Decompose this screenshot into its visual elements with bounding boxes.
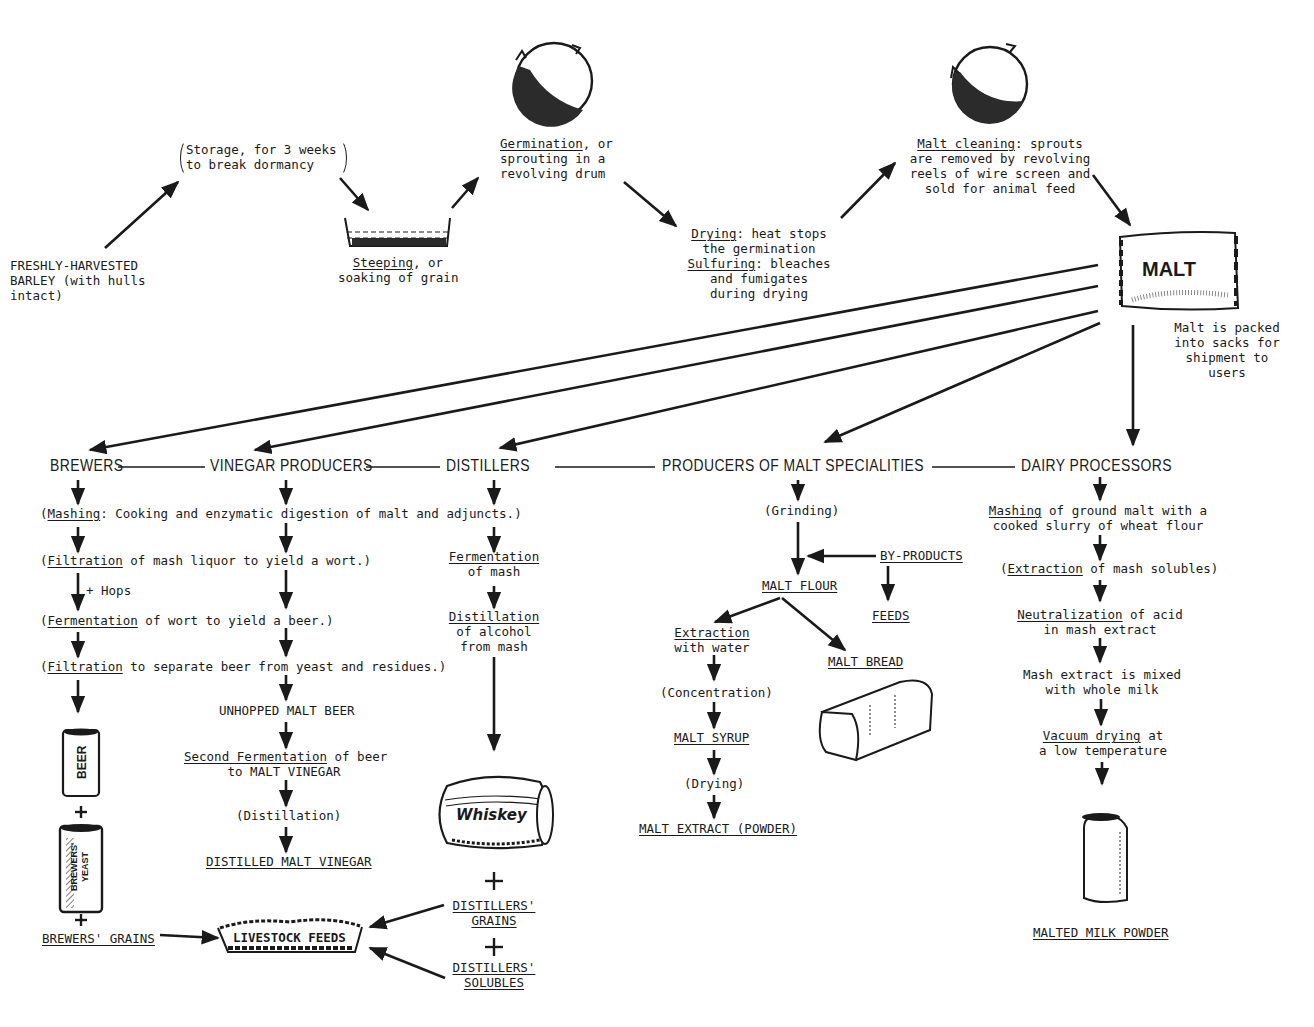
arrow-barley-to-storage xyxy=(105,182,178,248)
steeping-step: Steeping, orsoaking of grain xyxy=(338,255,458,285)
arrow-malt-to-brewers xyxy=(90,265,1098,450)
malt-bread: MALT BREAD xyxy=(828,654,903,669)
brewers-grains: BREWERS' GRAINS xyxy=(42,931,155,946)
malt-bread-illustration xyxy=(820,681,932,761)
arrow-malt-to-distillers xyxy=(500,311,1098,448)
header-dairy-processors: DAIRY PROCESSORS xyxy=(1021,456,1172,476)
malt-note: Malt is packed into sacks for shipment t… xyxy=(1166,320,1288,380)
distillers-solubles: DISTILLERS' SOLUBLES xyxy=(446,960,542,990)
header-distillers: DISTILLERS xyxy=(446,456,530,476)
arrow-steeping-to-germination xyxy=(452,178,478,208)
vacuum-drying-step: Vacuum drying ata low temperature xyxy=(1030,728,1176,758)
cleaning-drum-illustration xyxy=(951,44,1027,124)
unhopped-malt-beer: UNHOPPED MALT BEER xyxy=(219,703,354,718)
filtration-wort-step: (Filtration of mash liquor to yield a wo… xyxy=(40,553,371,568)
distillers-grains: DISTILLERS' GRAINS xyxy=(446,898,542,928)
mashing-step: (Mashing: Cooking and enzymatic digestio… xyxy=(40,506,522,521)
livestock-feeds-label: LIVESTOCK FEEDS xyxy=(233,930,346,945)
by-products: BY-PRODUCTS xyxy=(880,548,963,563)
header-brewers: BREWERS xyxy=(50,456,123,476)
malt-cleaning-step: Malt cleaning: sproutsare removed by rev… xyxy=(906,136,1094,196)
whiskey-barrel-label: Whiskey xyxy=(456,806,527,824)
malt-extract-powder: MALT EXTRACT (POWDER) xyxy=(639,821,797,836)
distillation-step: (Distillation) xyxy=(236,808,341,823)
distilled-malt-vinegar: DISTILLED MALT VINEGAR xyxy=(206,854,372,869)
yeast-can-label: BREWERS' YEAST xyxy=(69,835,99,899)
malt-sack-label: MALT xyxy=(1142,258,1196,281)
neutralization-step: Neutralization of acidin mash extract xyxy=(1012,607,1188,637)
malt-syrup: MALT SYRUP xyxy=(674,730,749,745)
paren-right xyxy=(332,140,347,176)
header-vinegar-producers: VINEGAR PRODUCERS xyxy=(210,456,373,476)
germination-step: Germination, orsprouting in a revolving … xyxy=(500,136,613,181)
arrow-cleaning-to-malt xyxy=(1093,175,1130,225)
germination-drum-illustration xyxy=(512,43,592,127)
distillers-fermentation-step: Fermentationof mash xyxy=(446,549,542,579)
drying-step: (Drying) xyxy=(684,776,744,791)
distillers-distillation-step: Distillationof alcohol from mash xyxy=(446,609,542,654)
extraction-water-step: Extractionwith water xyxy=(664,625,760,655)
paren-left xyxy=(180,140,195,176)
mixed-milk-step: Mash extract is mixed with whole milk xyxy=(1016,667,1188,697)
hops-label: + Hops xyxy=(86,583,131,598)
feeds: FEEDS xyxy=(872,608,910,623)
header-malt-specialities: PRODUCERS OF MALT SPECIALITIES xyxy=(662,456,924,476)
second-fermentation-step: Second Fermentation of beerto MALT VINEG… xyxy=(184,749,384,779)
drying-sulfuring-step: Drying: heat stopsthe germinationSulfuri… xyxy=(684,226,834,301)
arrow-drying-to-cleaning xyxy=(841,163,895,218)
arrow-storage-to-steeping xyxy=(340,178,368,210)
dairy-mashing-step: Mashing of ground malt with acooked slur… xyxy=(984,503,1212,533)
barley-label: FRESHLY-HARVESTED BARLEY (with hulls int… xyxy=(10,258,145,303)
storage-step: Storage, for 3 weeks to break dormancy xyxy=(186,142,337,172)
beer-can-label: BEER xyxy=(64,751,100,779)
concentration-step: (Concentration) xyxy=(660,685,773,700)
steeping-tank-illustration xyxy=(345,218,450,246)
filtration-yeast-step: (Filtration to separate beer from yeast … xyxy=(40,659,446,674)
dairy-extraction-step: (Extraction of mash solubles) xyxy=(1000,561,1218,576)
grinding-step: (Grinding) xyxy=(764,503,839,518)
milk-jar-illustration xyxy=(1082,813,1127,902)
arrow-germination-to-drying xyxy=(624,182,676,226)
malted-milk-powder: MALTED MILK POWDER xyxy=(1033,925,1168,940)
malt-flour: MALT FLOUR xyxy=(762,578,837,593)
fermentation-beer-step: (Fermentation of wort to yield a beer.) xyxy=(40,613,334,628)
arrow-malt-to-vinegar xyxy=(255,286,1098,450)
